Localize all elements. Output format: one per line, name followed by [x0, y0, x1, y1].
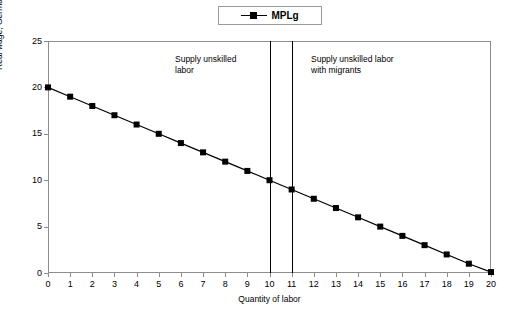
series-point-marker	[488, 269, 494, 275]
series-point-marker	[444, 251, 450, 257]
series-point-marker	[311, 196, 317, 202]
series-point-marker	[422, 242, 428, 248]
series-point-marker	[178, 140, 184, 146]
series-point-marker	[111, 112, 117, 118]
series-point-marker	[466, 261, 472, 267]
series-point-marker	[289, 186, 295, 192]
series-point-marker	[67, 94, 73, 100]
series-point-marker	[134, 122, 140, 128]
series-point-marker	[89, 103, 95, 109]
series-point-marker	[156, 131, 162, 137]
data-series-layer	[0, 0, 517, 320]
series-point-marker	[45, 84, 51, 90]
series-point-marker	[399, 233, 405, 239]
series-point-marker	[377, 224, 383, 230]
series-point-marker	[333, 205, 339, 211]
chart-container: MPLg Real wage, Germany Quantity of labo…	[0, 0, 517, 320]
series-point-marker	[355, 214, 361, 220]
series-point-marker	[222, 159, 228, 165]
series-point-marker	[200, 149, 206, 155]
series-point-marker	[267, 177, 273, 183]
series-point-marker	[244, 168, 250, 174]
